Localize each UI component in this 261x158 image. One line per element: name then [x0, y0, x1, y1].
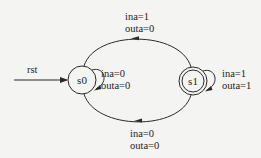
transition-s1-s0-output: outa=0 [130, 140, 159, 152]
transition-s0-self-output: outa=0 [101, 80, 130, 92]
transition-s0-s1-output: outa=0 [125, 23, 154, 35]
state-s1-label[interactable]: s1 [181, 75, 205, 87]
transition-s1-self-output: outa=1 [222, 80, 251, 92]
reset-label: rst [27, 64, 38, 76]
transition-s1-self-input: ina=1 [222, 68, 246, 80]
transition-s0-s1-arc [84, 39, 191, 67]
transition-s0-self-input: ina=0 [101, 68, 125, 80]
state-s0-label[interactable]: s0 [70, 74, 94, 86]
transition-s1-s0-input: ina=0 [130, 128, 154, 140]
transition-s1-s0-arc [84, 94, 191, 122]
transition-s0-s1-input: ina=1 [125, 11, 149, 23]
